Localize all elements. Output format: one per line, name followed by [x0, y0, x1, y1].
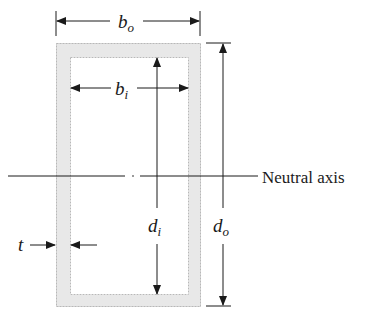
outer-width-dimension: bo	[56, 11, 200, 36]
outer-boundary	[57, 44, 201, 307]
outer-depth-label: do	[213, 215, 230, 239]
inner-width-label: bi	[115, 78, 129, 102]
neutral-axis-label: Neutral axis	[262, 168, 345, 187]
neutral-axis-center-dot	[132, 175, 134, 177]
cross-section-diagram: bo bi di do Neutral axis t	[0, 0, 376, 310]
section-wall	[56, 43, 201, 307]
outer-width-label: bo	[118, 11, 135, 35]
inner-width-dimension: bi	[71, 78, 188, 102]
inner-depth-label: di	[148, 215, 162, 239]
outer-depth-dimension: do	[206, 43, 231, 306]
thickness-label: t	[18, 234, 24, 255]
hollow-section	[56, 43, 201, 307]
